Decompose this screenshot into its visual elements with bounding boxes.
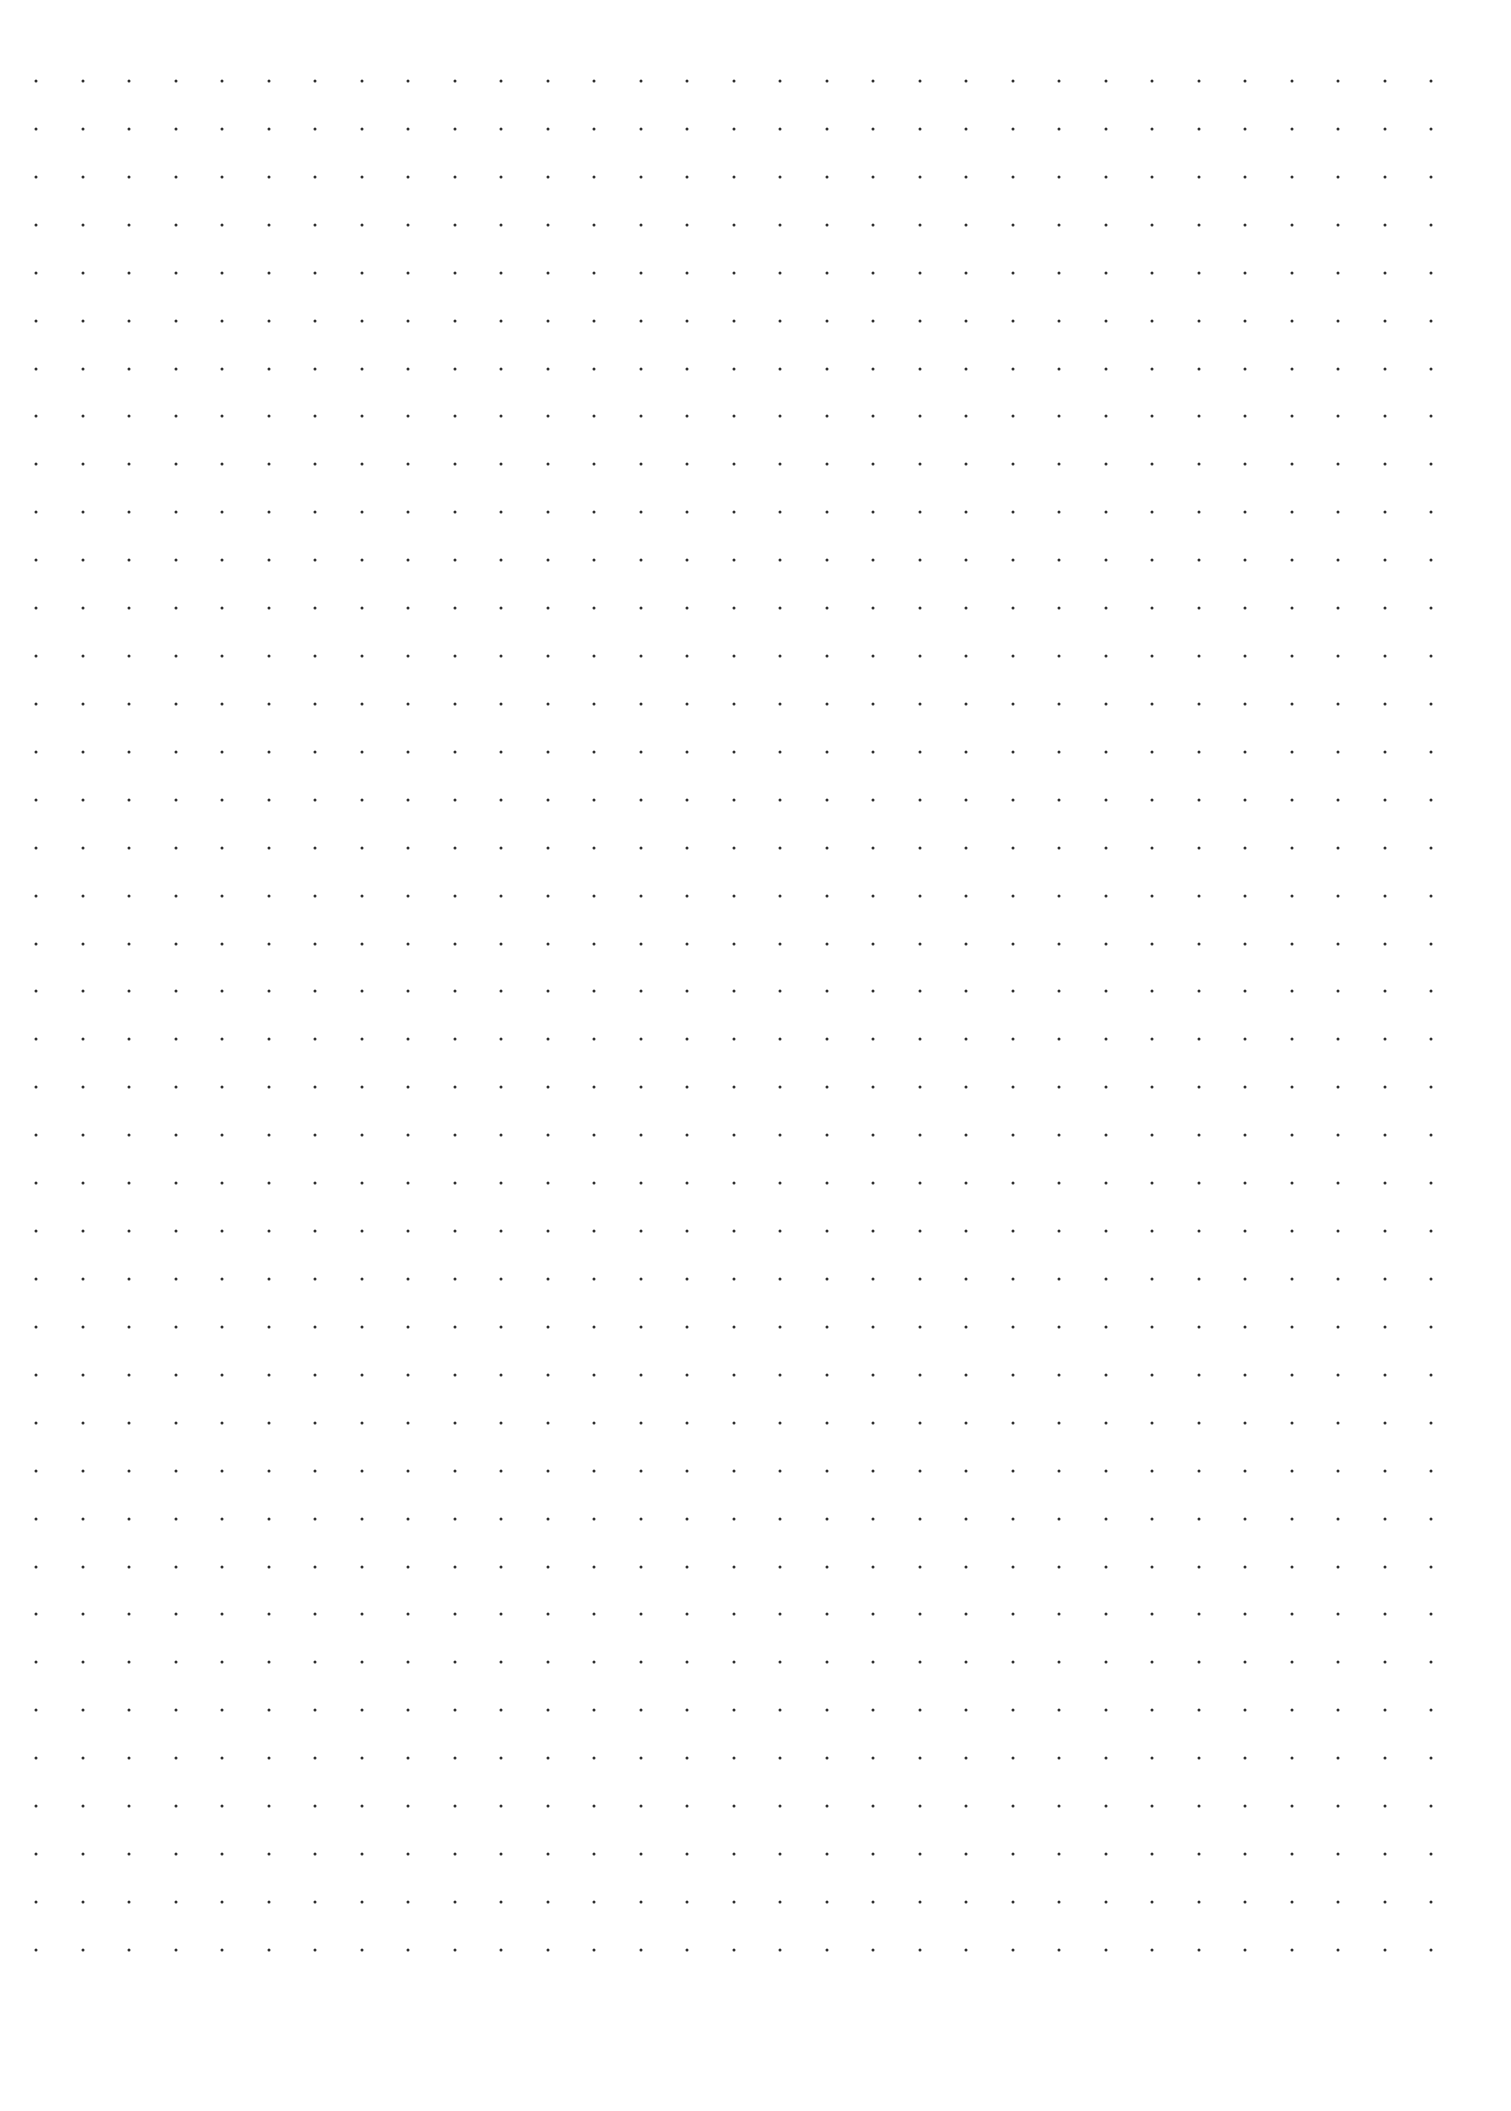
grid-dot xyxy=(1151,559,1154,562)
grid-dot xyxy=(1337,1517,1340,1520)
grid-dot xyxy=(1383,367,1386,370)
grid-dot xyxy=(1151,1230,1154,1233)
grid-dot xyxy=(1244,1182,1247,1185)
grid-dot xyxy=(732,1182,735,1185)
grid-dot xyxy=(267,127,270,130)
grid-dot xyxy=(314,942,317,945)
grid-dot xyxy=(500,655,503,658)
grid-dot xyxy=(1058,1565,1061,1568)
grid-dot xyxy=(965,1421,968,1424)
grid-dot xyxy=(35,942,38,945)
grid-dot xyxy=(314,607,317,610)
grid-dot xyxy=(546,798,549,801)
grid-dot xyxy=(1011,798,1014,801)
grid-dot xyxy=(267,463,270,466)
grid-dot xyxy=(1337,1565,1340,1568)
grid-dot xyxy=(1383,1613,1386,1616)
grid-dot xyxy=(1058,990,1061,993)
grid-dot xyxy=(965,1613,968,1616)
grid-dot xyxy=(267,1853,270,1856)
grid-dot xyxy=(546,942,549,945)
grid-dot xyxy=(1244,80,1247,83)
grid-dot xyxy=(1104,223,1107,226)
grid-dot xyxy=(1383,1325,1386,1328)
grid-dot xyxy=(965,1038,968,1041)
grid-dot xyxy=(314,1853,317,1856)
grid-dot xyxy=(174,319,177,322)
grid-dot xyxy=(1197,1853,1200,1856)
grid-dot xyxy=(1011,1565,1014,1568)
grid-dot xyxy=(1058,1182,1061,1185)
grid-dot xyxy=(686,846,689,849)
grid-dot xyxy=(35,702,38,705)
grid-dot xyxy=(1197,463,1200,466)
grid-dot xyxy=(546,1038,549,1041)
grid-dot xyxy=(1383,415,1386,418)
grid-dot xyxy=(1244,1661,1247,1664)
grid-dot xyxy=(314,1373,317,1376)
grid-dot xyxy=(779,271,782,274)
grid-dot xyxy=(779,223,782,226)
grid-dot xyxy=(1058,559,1061,562)
grid-dot xyxy=(732,1278,735,1281)
grid-dot xyxy=(918,223,921,226)
grid-dot xyxy=(500,750,503,753)
grid-dot xyxy=(360,319,363,322)
grid-dot xyxy=(779,80,782,83)
grid-dot xyxy=(918,80,921,83)
grid-dot xyxy=(639,1230,642,1233)
grid-dot xyxy=(174,1230,177,1233)
grid-dot xyxy=(825,990,828,993)
grid-dot xyxy=(825,655,828,658)
grid-dot xyxy=(128,798,131,801)
grid-dot xyxy=(1383,1230,1386,1233)
grid-dot xyxy=(593,750,596,753)
grid-dot xyxy=(1290,1038,1293,1041)
grid-dot xyxy=(686,1565,689,1568)
grid-dot xyxy=(1337,1469,1340,1472)
grid-dot xyxy=(1151,1948,1154,1951)
grid-dot xyxy=(1430,1421,1433,1424)
grid-dot xyxy=(1383,1086,1386,1089)
grid-dot xyxy=(221,367,224,370)
grid-dot xyxy=(1011,750,1014,753)
grid-dot xyxy=(128,1757,131,1760)
grid-dot xyxy=(81,1948,84,1951)
grid-dot xyxy=(825,1421,828,1424)
grid-dot xyxy=(1151,1469,1154,1472)
grid-dot xyxy=(407,415,410,418)
grid-dot xyxy=(1290,1086,1293,1089)
grid-dot xyxy=(686,607,689,610)
grid-dot xyxy=(267,1421,270,1424)
grid-dot xyxy=(593,798,596,801)
grid-dot xyxy=(453,1278,456,1281)
grid-dot xyxy=(872,559,875,562)
grid-dot xyxy=(1430,367,1433,370)
grid-dot xyxy=(360,990,363,993)
grid-dot xyxy=(360,1900,363,1903)
grid-dot xyxy=(779,367,782,370)
grid-dot xyxy=(500,1565,503,1568)
grid-dot xyxy=(1104,1757,1107,1760)
grid-dot xyxy=(453,1038,456,1041)
grid-dot xyxy=(779,942,782,945)
grid-dot xyxy=(314,1182,317,1185)
grid-dot xyxy=(779,750,782,753)
grid-dot xyxy=(1337,1373,1340,1376)
grid-dot xyxy=(500,175,503,178)
grid-dot xyxy=(872,942,875,945)
grid-dot xyxy=(965,846,968,849)
grid-dot xyxy=(732,1230,735,1233)
grid-dot xyxy=(732,655,735,658)
grid-dot xyxy=(1244,1900,1247,1903)
grid-dot xyxy=(1244,1709,1247,1712)
grid-dot xyxy=(453,1325,456,1328)
grid-dot xyxy=(1290,1565,1293,1568)
grid-dot xyxy=(500,1805,503,1808)
grid-dot xyxy=(128,271,131,274)
grid-dot xyxy=(360,367,363,370)
grid-dot xyxy=(1197,607,1200,610)
grid-dot xyxy=(1058,223,1061,226)
grid-dot xyxy=(1290,463,1293,466)
grid-dot xyxy=(872,1278,875,1281)
